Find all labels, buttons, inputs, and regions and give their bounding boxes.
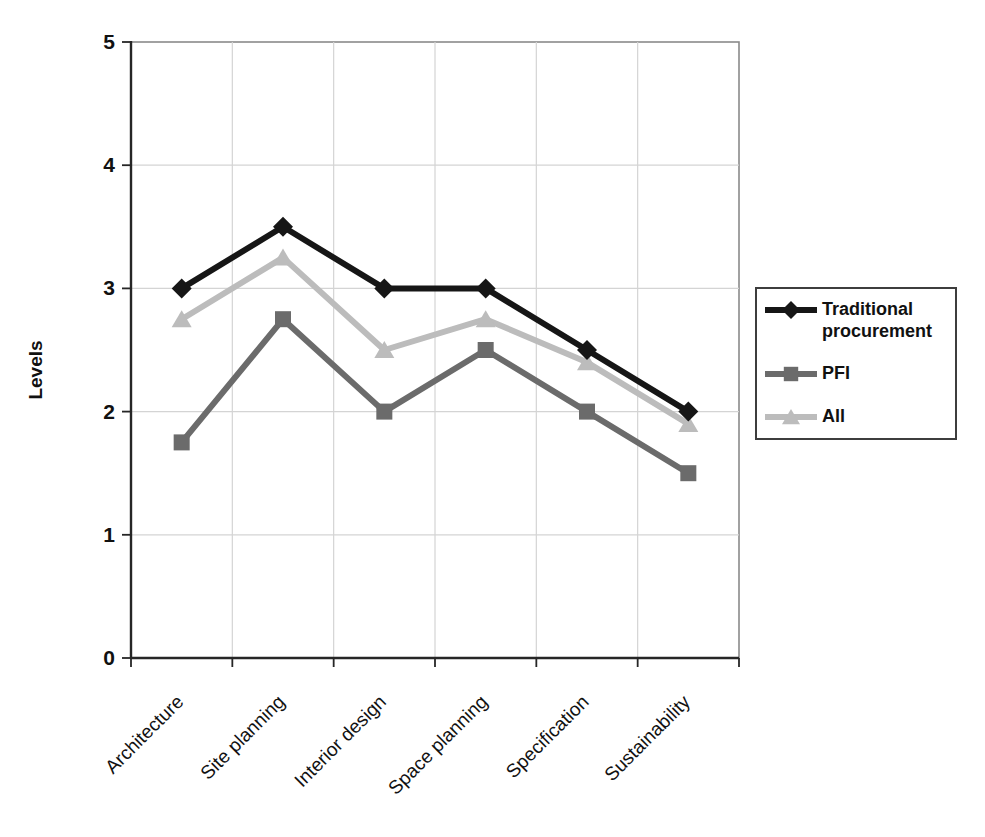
x-category-label: Specification (502, 691, 593, 782)
legend-item-traditional-procurement: Traditional procurement (765, 298, 947, 342)
y-tick-label: 2 (103, 400, 115, 423)
square-marker-icon (579, 404, 595, 420)
y-tick-label: 0 (103, 646, 115, 669)
legend-label: Traditional procurement (822, 298, 947, 342)
y-tick-label: 4 (103, 153, 115, 176)
y-tick-label: 3 (103, 276, 115, 299)
y-axis-title: Levels (25, 340, 46, 399)
legend-label: PFI (822, 362, 850, 384)
diamond-marker-icon (782, 301, 800, 319)
x-category-label: Space planning (384, 691, 491, 798)
legend-label: All (822, 405, 845, 427)
x-category-label: Architecture (101, 691, 188, 778)
square-marker-icon (174, 434, 190, 450)
square-marker-icon (784, 367, 798, 381)
square-legend-key-icon (765, 363, 817, 385)
x-category-label: Site planning (196, 691, 289, 784)
x-category-label: Sustainability (600, 691, 694, 785)
square-marker-icon (478, 342, 494, 358)
square-marker-icon (680, 465, 696, 481)
x-category-label: Interior design (290, 691, 390, 791)
square-marker-icon (275, 311, 291, 327)
triangle-legend-key-icon (765, 406, 817, 428)
chart-legend: Traditional procurementPFIAll (755, 287, 957, 440)
legend-item-all: All (765, 405, 947, 428)
diamond-legend-key-icon (765, 299, 817, 321)
square-marker-icon (376, 404, 392, 420)
y-tick-label: 5 (103, 30, 115, 53)
chart-figure: 012345ArchitectureSite planningInterior … (0, 0, 985, 837)
legend-item-pfi: PFI (765, 362, 947, 385)
y-tick-label: 1 (103, 523, 115, 546)
